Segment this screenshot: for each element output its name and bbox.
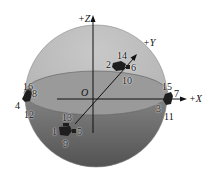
point-label-14: 14 — [117, 51, 127, 61]
point-label-10: 10 — [122, 76, 132, 86]
point-label-9: 9 — [63, 139, 68, 149]
point-label-12: 12 — [24, 110, 34, 120]
point-label-5: 5 — [77, 127, 82, 137]
point-label-4: 4 — [15, 101, 20, 111]
point-label-1: 1 — [52, 127, 57, 137]
z-arrow-icon — [91, 15, 96, 22]
origin-label: O — [81, 88, 88, 98]
point-label-11: 11 — [164, 112, 174, 122]
marker-5 — [72, 129, 76, 133]
point-label-13: 13 — [62, 113, 72, 123]
z-axis-label: +Z — [78, 14, 90, 24]
point-label-7: 7 — [174, 89, 179, 99]
point-label-3: 3 — [156, 104, 161, 114]
marker-6 — [126, 65, 130, 69]
y-axis-label: +Y — [143, 38, 155, 48]
point-label-15: 15 — [162, 82, 172, 92]
point-label-6: 6 — [131, 63, 136, 73]
point-label-2: 2 — [106, 60, 111, 70]
x-arrow-icon — [180, 97, 187, 102]
x-axis-label: +X — [189, 94, 202, 104]
marker-13 — [63, 123, 69, 126]
point-label-8: 8 — [32, 89, 37, 99]
